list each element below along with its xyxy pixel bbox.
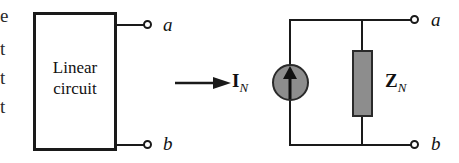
margin-text-fragment: e xyxy=(0,6,8,25)
impedance-element xyxy=(352,50,373,117)
impedance-label: ZN xyxy=(385,71,406,94)
current-source-arrow-icon xyxy=(281,66,299,99)
margin-text-fragment: t xyxy=(0,39,5,58)
left-terminal-a-label: a xyxy=(163,15,173,34)
linear-circuit-label-line2: circuit xyxy=(33,79,117,100)
norton-top-rail xyxy=(289,19,412,21)
left-terminal-b-node xyxy=(143,140,152,149)
norton-terminal-b-node xyxy=(410,140,419,149)
norton-terminal-a-node xyxy=(410,15,419,24)
linear-circuit-label-line1: Linear xyxy=(33,58,117,79)
norton-terminal-a-label: a xyxy=(431,10,441,29)
current-source-subscript: N xyxy=(239,80,248,95)
impedance-symbol-text: Z xyxy=(385,70,398,91)
margin-text-fragment: t xyxy=(0,97,5,116)
left-terminal-b-lead xyxy=(117,144,144,146)
left-terminal-a-node xyxy=(143,20,152,29)
linear-circuit-label: Linear circuit xyxy=(33,58,117,99)
norton-bottom-rail xyxy=(289,144,412,146)
transformation-arrow-icon xyxy=(175,76,231,90)
current-source-label: IN xyxy=(232,71,248,94)
left-terminal-b-label: b xyxy=(163,134,173,153)
left-terminal-a-lead xyxy=(117,24,144,26)
impedance-subscript: N xyxy=(398,80,407,95)
norton-terminal-b-label: b xyxy=(431,134,441,153)
norton-equivalent-figure: e t t t Linear circuit a b IN ZN a b xyxy=(0,0,459,163)
margin-text-fragment: t xyxy=(0,68,5,87)
